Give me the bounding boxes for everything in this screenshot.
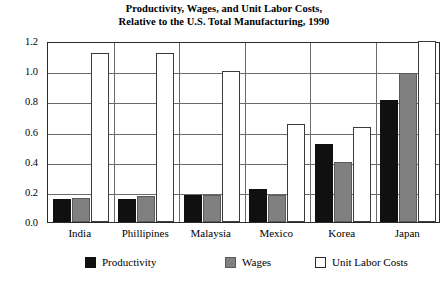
bar	[53, 199, 71, 222]
bar	[334, 162, 352, 222]
bar	[418, 41, 436, 222]
y-axis-tick-label: 0.2	[25, 188, 38, 198]
x-axis-tick-label: Japan	[375, 226, 441, 240]
legend-item: Productivity	[85, 256, 156, 268]
bar	[203, 195, 221, 222]
chart-title-line-2: Relative to the U.S. Total Manufacturing…	[0, 15, 448, 28]
legend-item: Unit Labor Costs	[315, 256, 408, 268]
bar	[268, 195, 286, 222]
y-axis-tick-label: 0.4	[25, 158, 38, 168]
legend-swatch	[85, 257, 96, 268]
bar	[353, 127, 371, 222]
bar	[91, 53, 109, 222]
bar	[380, 100, 398, 222]
bar	[222, 71, 240, 222]
x-axis-tick-label: Mexico	[244, 226, 310, 240]
bar	[156, 53, 174, 222]
chart-legend: ProductivityWagesUnit Labor Costs	[47, 256, 440, 276]
x-axis-tick-label: Malaysia	[178, 226, 244, 240]
y-axis: 1.21.00.80.60.40.20.0	[0, 42, 43, 223]
bar	[118, 199, 136, 222]
x-axis: IndiaPhillipinesMalaysiaMexicoKoreaJapan	[47, 226, 440, 246]
chart-title-line-1: Productivity, Wages, and Unit Labor Cost…	[0, 2, 448, 15]
y-axis-tick-label: 0.0	[25, 218, 38, 228]
legend-item: Wages	[225, 256, 271, 268]
bar	[315, 144, 333, 222]
x-axis-tick-label: India	[47, 226, 113, 240]
y-axis-tick-label: 0.6	[25, 128, 38, 138]
chart-title: Productivity, Wages, and Unit Labor Cost…	[0, 2, 448, 28]
bar	[399, 73, 417, 222]
legend-label: Unit Labor Costs	[332, 256, 408, 268]
chart-figure: Productivity, Wages, and Unit Labor Cost…	[0, 0, 448, 290]
bars-layer	[48, 43, 439, 222]
bar	[287, 124, 305, 222]
y-axis-tick-label: 0.8	[25, 97, 38, 107]
legend-label: Productivity	[102, 256, 156, 268]
x-axis-tick-label: Korea	[309, 226, 375, 240]
bar	[72, 198, 90, 222]
y-axis-tick-label: 1.0	[25, 67, 38, 77]
legend-swatch	[315, 257, 326, 268]
x-axis-tick-label: Phillipines	[113, 226, 179, 240]
legend-label: Wages	[242, 256, 271, 268]
plot-area	[47, 42, 440, 223]
bar	[249, 189, 267, 222]
y-axis-tick-label: 1.2	[25, 37, 38, 47]
bar	[137, 196, 155, 222]
legend-swatch	[225, 257, 236, 268]
bar	[184, 195, 202, 222]
